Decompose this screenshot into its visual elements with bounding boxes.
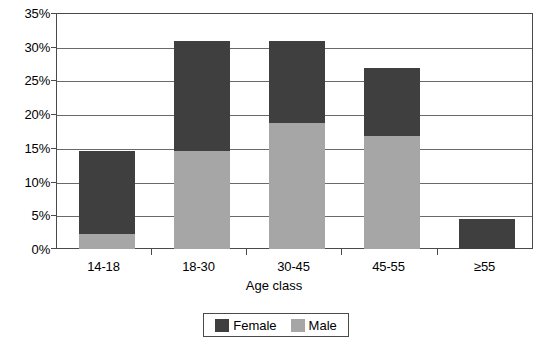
x-tick-label-14-18: 14-18 [56, 259, 151, 274]
y-tick-label: 15% [2, 142, 50, 155]
gridline [57, 115, 532, 116]
x-tick-label-55plus: ≥55 [437, 259, 532, 274]
gridline [57, 81, 532, 82]
y-tick-label: 5% [2, 209, 50, 222]
y-tick-label: 25% [2, 74, 50, 87]
gridline [57, 216, 532, 217]
y-tick-label: 10% [2, 176, 50, 189]
y-axis: 35% 30% 25% 20% 15% 10% 5% 0% [0, 13, 50, 249]
legend-entry-female: Female [215, 319, 276, 332]
gridline [57, 48, 532, 49]
y-tick-label: 20% [2, 108, 50, 121]
x-axis-title: Age class [0, 278, 548, 293]
legend-label-female: Female [233, 319, 276, 332]
stacked-bar-chart: 35% 30% 25% 20% 15% 10% 5% 0% [0, 0, 548, 350]
legend-label-male: Male [309, 319, 337, 332]
x-tick-mark [341, 249, 342, 255]
gridline [57, 183, 532, 184]
y-tick-label: 30% [2, 41, 50, 54]
legend-swatch-male-icon [291, 319, 305, 332]
gridline [57, 149, 532, 150]
chart-legend: Female Male [203, 313, 349, 337]
x-tick-label-30-45: 30-45 [246, 259, 341, 274]
x-tick-mark [437, 249, 438, 255]
x-tick-label-45-55: 45-55 [341, 259, 436, 274]
legend-entry-male: Male [291, 319, 337, 332]
legend-swatch-female-icon [215, 319, 229, 332]
x-tick-mark [151, 249, 152, 255]
y-tick-label: 0% [2, 243, 50, 256]
y-tick-label: 35% [2, 7, 50, 20]
x-tick-label-18-30: 18-30 [151, 259, 246, 274]
plot-area [56, 13, 533, 249]
x-tick-mark [246, 249, 247, 255]
